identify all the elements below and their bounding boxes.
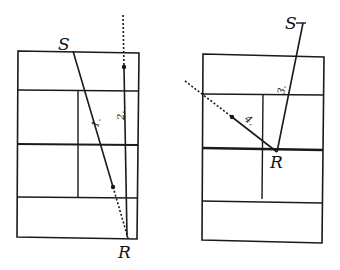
right-server-label: S bbox=[285, 13, 297, 33]
diagram-canvas: S R 1. 2. S R 3. 4. bbox=[0, 0, 340, 270]
left-trajectory-2-dotted bbox=[123, 15, 124, 67]
right-receiver-label: R bbox=[269, 152, 283, 172]
right-trajectory-4-dotted bbox=[185, 81, 232, 117]
left-server-label: S bbox=[58, 34, 70, 54]
right-trajectory-4-solid bbox=[232, 117, 277, 152]
right-court bbox=[185, 23, 324, 243]
right-center-service-line bbox=[262, 94, 263, 199]
left-service-line-bottom bbox=[17, 197, 137, 198]
right-service-line-bottom bbox=[202, 201, 322, 203]
left-court bbox=[17, 15, 139, 239]
left-trajectory-1-label: 1. bbox=[89, 116, 102, 128]
left-trajectory-2-solid bbox=[124, 67, 127, 237]
left-trajectory-2-label: 2. bbox=[115, 110, 126, 121]
right-trajectory-3-label: 3. bbox=[275, 84, 288, 96]
right-trajectory-4-label: 4. bbox=[242, 112, 257, 127]
left-receiver-label: R bbox=[117, 242, 131, 262]
